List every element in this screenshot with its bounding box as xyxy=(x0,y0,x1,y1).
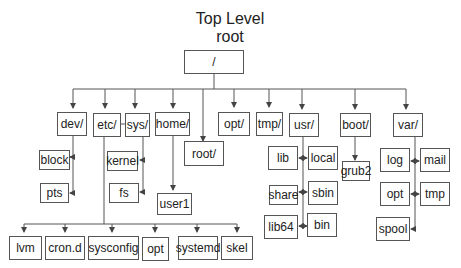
boot-node: boot/ xyxy=(340,113,371,137)
root-home-node: root/ xyxy=(184,141,224,166)
etc-node: etc/ xyxy=(93,113,121,137)
skel-node: skel xyxy=(221,236,253,260)
lib-node: lib xyxy=(268,146,298,170)
user1-node: user1 xyxy=(157,193,192,215)
log-node: log xyxy=(380,148,410,172)
sysconfig-node: sysconfig xyxy=(88,236,139,260)
lvm-node: lvm xyxy=(9,236,42,260)
lib64-node: lib64 xyxy=(264,215,298,239)
tmp-node: tmp/ xyxy=(256,112,283,136)
opt-node: opt/ xyxy=(218,112,250,136)
kernel-node: kernel xyxy=(107,151,138,171)
cron-d-node: cron.d xyxy=(45,236,85,260)
mail-node: mail xyxy=(420,148,450,172)
home-node: home/ xyxy=(155,112,190,136)
fs-node: fs xyxy=(109,183,139,203)
grub2-node: grub2 xyxy=(342,161,370,181)
bin-node: bin xyxy=(307,213,337,237)
sbin-node: sbin xyxy=(308,181,338,205)
opt-var-node: opt xyxy=(380,182,410,206)
opt-etc-node: opt xyxy=(142,237,169,261)
share-node: share xyxy=(269,185,298,205)
root-dir-node: / xyxy=(184,50,244,74)
systemd-node: systemd xyxy=(178,236,218,260)
sys-node: sys/ xyxy=(125,113,150,137)
diagram-title: Top Level root xyxy=(180,10,280,46)
dev-node: dev/ xyxy=(57,112,87,136)
title-line-2: root xyxy=(180,28,280,46)
var-node: var/ xyxy=(393,113,423,137)
pts-node: pts xyxy=(40,183,69,203)
spool-node: spool xyxy=(376,217,410,241)
title-line-1: Top Level xyxy=(180,10,280,28)
tmp-var-node: tmp xyxy=(420,182,450,206)
block-node: block xyxy=(39,150,70,170)
usr-node: usr/ xyxy=(289,113,319,137)
local-node: local xyxy=(308,146,338,170)
